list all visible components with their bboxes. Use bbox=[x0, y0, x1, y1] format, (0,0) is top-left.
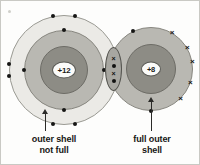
shared-electron-pair-region: ×× bbox=[105, 47, 122, 91]
full-outer-shell-line-2: shell bbox=[116, 145, 188, 156]
oxygen-nucleus-charge: +8 bbox=[141, 62, 161, 77]
magnesium-atom-electron-dot bbox=[73, 122, 77, 126]
full-outer-shell-leader-line bbox=[151, 101, 152, 131]
outer-shell-not-full-line-1: outer shell bbox=[11, 134, 97, 145]
shared-electron-cross: × bbox=[111, 55, 115, 62]
oxygen-atom-electron-cross: × bbox=[169, 30, 175, 36]
magnesium-atom-electron-dot bbox=[62, 28, 66, 32]
magnesium-atom-electron-dot bbox=[22, 68, 26, 72]
magnesium-atom-electron-dot bbox=[51, 14, 55, 18]
scan-artifact-speck bbox=[8, 10, 11, 13]
outer-shell-not-full-label: outer shell not full bbox=[11, 134, 97, 155]
magnesium-atom-electron-dot bbox=[51, 122, 55, 126]
magnesium-atom-electron-dot bbox=[7, 62, 11, 66]
full-outer-shell-line-1: full outer bbox=[116, 134, 188, 145]
outer-shell-not-full-line-2: not full bbox=[11, 145, 97, 156]
oxygen-atom-electron-cross: × bbox=[187, 80, 193, 86]
oxygen-atom-electron-dot bbox=[131, 29, 135, 33]
shared-electron-dot bbox=[112, 79, 116, 83]
full-outer-shell-arrowhead bbox=[148, 97, 154, 102]
oxygen-atom-electron-cross: × bbox=[189, 59, 195, 65]
magnesium-atom-electron-dot bbox=[62, 108, 66, 112]
outer-shell-not-full-leader-line bbox=[45, 113, 46, 131]
magnesium-atom: +12 bbox=[9, 15, 119, 125]
shared-electron-cross: × bbox=[111, 70, 115, 77]
diagram-canvas: +12 +8 ××××× ×× outer shell not full ful… bbox=[0, 0, 200, 165]
shared-electron-dot bbox=[112, 64, 116, 68]
magnesium-nucleus-charge: +12 bbox=[52, 62, 76, 79]
magnesium-atom-electron-dot bbox=[73, 14, 77, 18]
magnesium-atom-electron-dot bbox=[7, 74, 11, 78]
shared-electron-marks: ×× bbox=[105, 47, 122, 91]
oxygen-atom-electron-cross: × bbox=[184, 45, 190, 51]
outer-shell-not-full-arrowhead bbox=[42, 109, 48, 114]
full-outer-shell-label: full outer shell bbox=[116, 134, 188, 155]
oxygen-atom-electron-cross: × bbox=[178, 96, 184, 102]
